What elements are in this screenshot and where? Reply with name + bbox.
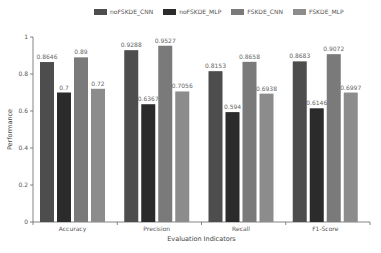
bar-value-label: 0.594 xyxy=(224,103,241,110)
bar-fskde-cnn-accuracy[interactable] xyxy=(74,57,88,222)
x-tick-label: Recall xyxy=(232,225,250,232)
bar-nofskde-mlp-precision[interactable] xyxy=(141,104,155,222)
bar-nofskde-mlp-f1-score[interactable] xyxy=(310,108,324,222)
bar-value-label: 0.7 xyxy=(59,84,69,91)
bar-value-label: 0.8646 xyxy=(37,53,58,60)
bar-value-label: 0.8683 xyxy=(289,52,310,59)
y-tick-label: 0.4 xyxy=(18,144,28,151)
bar-value-label: 0.6938 xyxy=(256,85,277,92)
bar-fskde-cnn-f1-score[interactable] xyxy=(327,54,341,222)
y-tick-label: 1 xyxy=(24,33,28,40)
x-axis-title: Evaluation Indicators xyxy=(167,235,236,243)
bar-nofskde-cnn-accuracy[interactable] xyxy=(40,62,54,222)
bar-chart: 00.20.40.60.81Performance0.86460.70.890.… xyxy=(0,0,381,253)
bar-value-label: 0.8658 xyxy=(239,53,260,60)
bar-nofskde-cnn-recall[interactable] xyxy=(209,71,223,222)
bar-value-label: 0.6367 xyxy=(138,95,159,102)
bar-value-label: 0.9072 xyxy=(323,45,344,52)
bar-fskde-mlp-f1-score[interactable] xyxy=(344,93,358,222)
x-tick-label: Accuracy xyxy=(59,225,87,233)
y-tick-label: 0 xyxy=(24,218,28,225)
bar-value-label: 0.89 xyxy=(74,48,88,55)
y-tick-label: 0.2 xyxy=(18,181,28,188)
bar-fskde-mlp-precision[interactable] xyxy=(175,91,189,222)
x-tick-label: Precision xyxy=(143,225,170,232)
bar-nofskde-cnn-precision[interactable] xyxy=(124,50,138,222)
bar-value-label: 0.6146 xyxy=(306,99,327,106)
bar-value-label: 0.7056 xyxy=(172,82,193,89)
bar-value-label: 0.6997 xyxy=(340,84,361,91)
bar-fskde-mlp-accuracy[interactable] xyxy=(91,89,105,222)
bar-fskde-mlp-recall[interactable] xyxy=(260,94,274,222)
bar-value-label: 0.8153 xyxy=(205,62,226,69)
y-axis-title: Performance xyxy=(6,109,14,150)
bar-value-label: 0.72 xyxy=(91,80,105,87)
y-tick-label: 0.8 xyxy=(18,70,28,77)
bar-value-label: 0.9527 xyxy=(155,37,176,44)
bar-nofskde-mlp-recall[interactable] xyxy=(226,112,240,222)
y-tick-label: 0.6 xyxy=(18,107,28,114)
bar-fskde-cnn-recall[interactable] xyxy=(243,62,257,222)
bar-nofskde-cnn-f1-score[interactable] xyxy=(293,61,307,222)
bar-nofskde-mlp-accuracy[interactable] xyxy=(57,93,71,223)
bar-value-label: 0.9288 xyxy=(121,41,142,48)
bar-fskde-cnn-precision[interactable] xyxy=(158,46,172,222)
x-tick-label: F1-Score xyxy=(312,225,339,232)
